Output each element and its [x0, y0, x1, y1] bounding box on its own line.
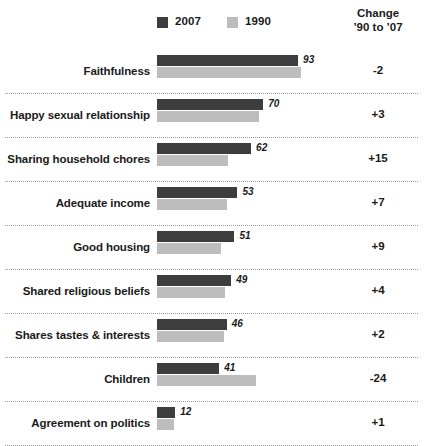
bar-2007	[157, 99, 263, 110]
row-bar-group: 41	[157, 363, 256, 386]
chart-legend: 2007 1990	[157, 14, 271, 30]
change-value: +9	[330, 237, 426, 255]
row-category-label: Shares tastes & interests	[0, 323, 150, 347]
row-category-label: Faithfulness	[0, 59, 150, 83]
bar-2007	[157, 407, 175, 418]
chart-row: Shares tastes & interests46+2	[0, 314, 427, 358]
bar-value-label: 51	[239, 230, 250, 242]
change-value: +15	[330, 149, 426, 167]
row-bar-group: 70	[157, 99, 263, 122]
chart-row: Adequate income53+7	[0, 182, 427, 226]
bar-2007	[157, 319, 227, 330]
bar-2007	[157, 275, 231, 286]
bar-1990	[157, 243, 221, 254]
row-bar-group: 93	[157, 55, 301, 78]
row-category-label: Adequate income	[0, 191, 150, 215]
row-bar-group: 12	[157, 407, 175, 430]
legend-swatch-2007	[157, 17, 168, 28]
bar-value-label: 41	[224, 362, 235, 374]
row-category-label: Sharing household chores	[0, 147, 150, 171]
row-category-label: Children	[0, 367, 150, 391]
row-bar-group: 53	[157, 187, 237, 210]
row-category-label: Good housing	[0, 235, 150, 259]
change-header-line2: ’90 to ’07	[330, 20, 426, 34]
bar-2007	[157, 55, 298, 66]
bar-value-label: 93	[303, 54, 314, 66]
change-value: +2	[330, 325, 426, 343]
bar-value-label: 12	[180, 406, 191, 418]
row-category-label: Agreement on politics	[0, 411, 150, 435]
chart-row: Shared religious beliefs49+4	[0, 270, 427, 314]
chart-row: Good housing51+9	[0, 226, 427, 270]
bar-1990	[157, 287, 225, 298]
legend-item-2007: 2007	[157, 16, 201, 28]
bar-2007	[157, 143, 251, 154]
bar-1990	[157, 111, 259, 122]
change-value: -24	[330, 369, 426, 387]
bar-value-label: 70	[268, 98, 279, 110]
change-column-header: Change ’90 to ’07	[330, 6, 426, 34]
legend-swatch-1990	[227, 17, 238, 28]
chart-row: Agreement on politics12+1	[0, 402, 427, 446]
row-category-label: Happy sexual relationship	[0, 103, 150, 127]
bar-value-label: 49	[236, 274, 247, 286]
legend-label-2007: 2007	[175, 16, 201, 28]
bar-2007	[157, 187, 237, 198]
bar-value-label: 46	[232, 318, 243, 330]
chart-row: Sharing household chores62+15	[0, 138, 427, 182]
bar-value-label: 62	[256, 142, 267, 154]
legend-item-1990: 1990	[227, 16, 271, 28]
chart-row: Happy sexual relationship70+3	[0, 94, 427, 138]
row-bar-group: 51	[157, 231, 234, 254]
bar-1990	[157, 199, 227, 210]
chart-row: Children41-24	[0, 358, 427, 402]
row-bar-group: 62	[157, 143, 251, 166]
change-value: -2	[330, 61, 426, 79]
row-category-label: Shared religious beliefs	[0, 279, 150, 303]
change-value: +7	[330, 193, 426, 211]
bar-1990	[157, 155, 228, 166]
change-value: +3	[330, 105, 426, 123]
row-bar-group: 46	[157, 319, 227, 342]
chart-row: Faithfulness93-2	[0, 50, 427, 94]
change-header-line1: Change	[330, 6, 426, 20]
bar-2007	[157, 231, 234, 242]
row-bar-group: 49	[157, 275, 231, 298]
bar-1990	[157, 375, 256, 386]
legend-label-1990: 1990	[245, 16, 271, 28]
change-value: +1	[330, 413, 426, 431]
chart-rows: Faithfulness93-2Happy sexual relationshi…	[0, 50, 427, 446]
change-value: +4	[330, 281, 426, 299]
bar-value-label: 53	[242, 186, 253, 198]
bar-1990	[157, 67, 301, 78]
bar-2007	[157, 363, 219, 374]
bar-1990	[157, 419, 174, 430]
bar-1990	[157, 331, 224, 342]
